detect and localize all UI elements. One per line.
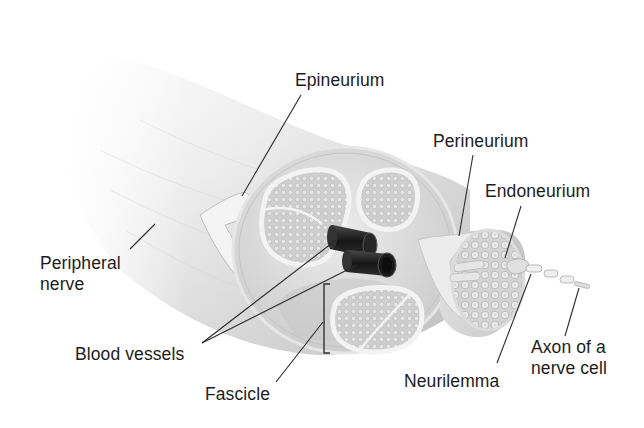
fascicle-bottom	[333, 288, 422, 352]
label-endoneurium: Endoneurium	[485, 181, 590, 202]
label-neurilemma: Neurilemma	[404, 371, 499, 392]
label-peripheral-nerve: Peripheral nerve	[40, 253, 121, 295]
label-axon-line-2: nerve cell	[531, 358, 607, 379]
label-blood-vessels: Blood vessels	[75, 344, 184, 365]
fascicle-top-right	[358, 170, 417, 230]
label-perineurium: Perineurium	[433, 131, 528, 152]
label-epineurium: Epineurium	[295, 70, 385, 91]
leader-axon	[565, 288, 579, 336]
label-axon: Axon of a nerve cell	[531, 337, 607, 379]
label-peripheral-nerve-line-1: Peripheral	[40, 253, 121, 274]
label-fascicle: Fascicle	[205, 384, 270, 405]
label-axon-line-1: Axon of a	[531, 337, 607, 358]
label-peripheral-nerve-line-2: nerve	[40, 274, 121, 295]
